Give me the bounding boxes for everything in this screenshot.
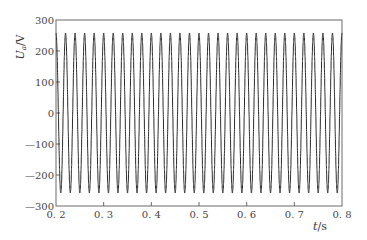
x-axis-label-unit: /s (318, 220, 328, 233)
y-tick-label: 100 (35, 77, 54, 88)
y-tick-label: 0 (48, 108, 54, 119)
x-tick-label: 0. 8 (332, 209, 351, 220)
y-tick-label: —200 (25, 170, 54, 181)
x-axis-label: t/s (313, 220, 327, 233)
y-tick-label: —300 (25, 201, 54, 212)
voltage-time-chart: 0. 20. 30. 40. 50. 60. 70. 83002001000—1… (0, 0, 367, 240)
voltage-waveform (56, 33, 342, 193)
y-tick-label: —100 (25, 139, 54, 150)
x-tick-label: 0. 7 (285, 209, 304, 220)
y-axis-label: Ua/V (14, 33, 28, 59)
y-axis-label-unit: /V (14, 33, 27, 46)
plot-frame (56, 20, 342, 206)
x-tick-label: 0. 4 (142, 209, 161, 220)
x-tick-label: 0. 5 (189, 209, 208, 220)
x-tick-label: 0. 3 (94, 209, 113, 220)
y-tick-label: 300 (35, 15, 54, 26)
plot-border (56, 20, 342, 206)
y-tick-label: 200 (35, 46, 54, 57)
x-tick-label: 0. 6 (237, 209, 256, 220)
